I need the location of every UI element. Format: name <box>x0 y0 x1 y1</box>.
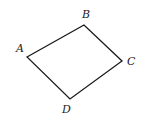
vertex-label-d: D <box>61 103 71 116</box>
diagram-canvas: A B C D <box>0 0 146 121</box>
quadrilateral-figure: A B C D <box>0 0 146 121</box>
quadrilateral-abcd <box>27 25 122 99</box>
vertex-label-a: A <box>15 42 24 55</box>
vertex-label-b: B <box>81 8 90 21</box>
vertex-label-c: C <box>127 55 136 68</box>
